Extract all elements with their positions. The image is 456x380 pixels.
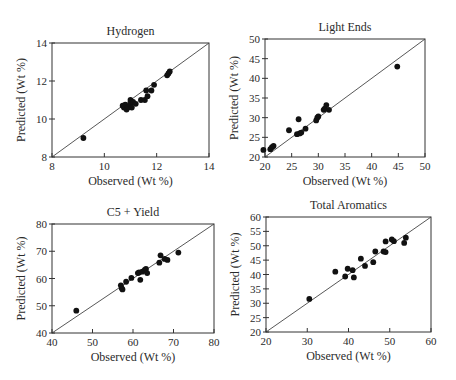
data-points (261, 64, 401, 153)
data-point (298, 130, 304, 136)
y-tick-label: 20 (250, 326, 262, 338)
x-tick-label: 70 (168, 336, 180, 348)
y-tick-label: 40 (249, 72, 261, 84)
y-tick-label: 80 (36, 218, 48, 230)
y-tick-label: 45 (249, 53, 261, 65)
data-point (351, 274, 357, 280)
data-point (120, 287, 126, 293)
y-tick-label: 35 (249, 92, 261, 104)
chart-title: Hydrogen (107, 24, 155, 38)
y-tick-label: 10 (36, 113, 48, 125)
data-point (167, 69, 173, 75)
data-point (306, 296, 312, 302)
x-tick-label: 8 (49, 160, 55, 172)
chart-title: C5 + Yield (107, 205, 159, 219)
chart-title: Light Ends (319, 20, 372, 34)
chart-title: Total Aromatics (310, 198, 387, 212)
y-tick-label: 8 (42, 151, 48, 163)
x-tick-label: 14 (204, 160, 216, 172)
y-tick-label: 50 (249, 33, 261, 45)
parity-line (265, 39, 425, 157)
data-point (332, 269, 338, 275)
y-axis-label: Predicted (Wt %) (14, 237, 28, 321)
y-tick-label: 12 (36, 75, 47, 87)
y-tick-label: 55 (250, 225, 262, 237)
x-tick-label: 50 (87, 336, 99, 348)
data-point (261, 147, 267, 153)
data-point (145, 93, 151, 99)
panel-c5-yield: C5 + Yield40506070804050607080Observed (… (14, 205, 220, 364)
data-point (345, 266, 351, 272)
y-axis-label: Predicted (Wt %) (227, 56, 241, 140)
data-point (144, 270, 150, 276)
panel-total-aromatics: Total Aromatics2030405060202530354045505… (228, 198, 437, 363)
y-tick-label: 60 (250, 211, 262, 223)
data-point (372, 249, 378, 255)
y-tick-label: 40 (250, 269, 262, 281)
data-point (383, 239, 389, 245)
panel-hydrogen: Hydrogen81012148101214Observed (Wt %)Pre… (14, 24, 215, 188)
x-axis-label: Observed (Wt %) (91, 350, 176, 364)
data-point (394, 64, 400, 70)
x-tick-label: 10 (99, 160, 111, 172)
y-tick-label: 50 (250, 240, 262, 252)
data-point (383, 249, 389, 255)
y-axis-label: Predicted (Wt %) (228, 233, 242, 317)
data-point (286, 127, 292, 133)
y-axis-label: Predicted (Wt %) (14, 58, 28, 142)
data-point (342, 274, 348, 280)
y-tick-label: 30 (249, 112, 261, 124)
data-point (165, 257, 171, 263)
parity-line (266, 217, 431, 332)
panel-light-ends: Light Ends2025303540455020253035404550Ob… (227, 20, 431, 188)
y-tick-label: 14 (36, 37, 48, 49)
data-point (128, 275, 134, 281)
x-tick-label: 12 (151, 160, 162, 172)
data-points (73, 250, 181, 314)
x-tick-label: 30 (313, 160, 325, 172)
y-tick-label: 30 (250, 297, 262, 309)
x-tick-label: 25 (286, 160, 298, 172)
x-tick-label: 50 (384, 335, 396, 347)
data-point (391, 238, 397, 244)
x-tick-label: 45 (393, 160, 405, 172)
x-tick-label: 50 (420, 160, 432, 172)
figure-2x2-scatter-grid: Hydrogen81012148101214Observed (Wt %)Pre… (0, 0, 456, 380)
data-point (401, 240, 407, 246)
data-point (296, 116, 302, 122)
data-point (156, 260, 162, 266)
data-point (326, 107, 332, 113)
y-tick-label: 20 (249, 151, 261, 163)
data-point (358, 256, 364, 262)
data-point (151, 82, 157, 88)
x-axis-ticks: 4050607080 (47, 329, 221, 348)
data-point (303, 126, 309, 132)
y-tick-label: 45 (250, 254, 262, 266)
x-tick-label: 35 (340, 160, 352, 172)
x-axis-label: Observed (Wt %) (303, 174, 388, 188)
y-tick-label: 70 (36, 245, 48, 257)
data-point (315, 114, 321, 120)
data-point (362, 263, 368, 269)
x-axis-label: Observed (Wt %) (88, 174, 173, 188)
y-tick-label: 25 (249, 131, 261, 143)
x-tick-label: 30 (302, 335, 314, 347)
x-tick-label: 20 (261, 335, 273, 347)
x-tick-label: 40 (343, 335, 355, 347)
data-point (350, 267, 356, 273)
data-point (370, 259, 376, 265)
x-axis-label: Observed (Wt %) (306, 349, 391, 363)
x-tick-label: 80 (209, 336, 221, 348)
x-tick-label: 60 (128, 336, 140, 348)
y-tick-label: 25 (250, 312, 262, 324)
x-tick-label: 60 (426, 335, 438, 347)
data-point (175, 250, 181, 256)
x-axis-ticks: 8101214 (49, 153, 215, 172)
y-tick-label: 50 (36, 300, 48, 312)
y-tick-label: 35 (250, 283, 262, 295)
x-tick-label: 40 (47, 336, 59, 348)
data-point (403, 235, 409, 241)
x-tick-label: 20 (260, 160, 272, 172)
data-point (123, 279, 129, 285)
data-point (81, 135, 87, 141)
